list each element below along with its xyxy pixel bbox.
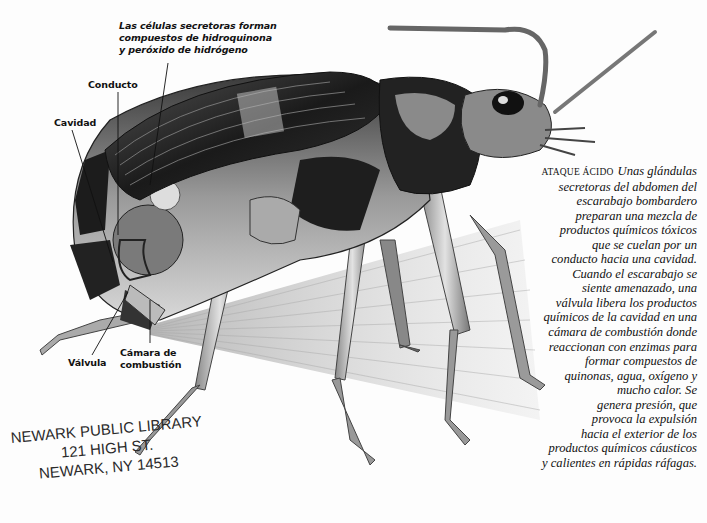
label-line: Las células secretoras forman	[119, 20, 277, 32]
caption-line: quinonas, agua, oxígeno y	[487, 369, 697, 384]
label-secretory-cells: Las células secretoras forman compuestos…	[119, 20, 277, 56]
label-cavity: Cavidad	[54, 117, 96, 129]
caption-line-0: ATAQUE ÁCIDOUnas glándulas	[487, 164, 697, 180]
label-line: y peróxido de hidrógeno	[119, 44, 277, 56]
label-valve: Válvula	[68, 357, 106, 369]
caption-block: ATAQUE ÁCIDOUnas glándulas secretoras de…	[487, 164, 697, 470]
caption-line: formar compuestos de	[487, 354, 697, 369]
caption-line: conducto hacia una cavidad.	[487, 252, 697, 267]
caption-line: escarabajo bombardero	[487, 194, 697, 209]
caption-heading: ATAQUE ÁCIDO	[541, 167, 613, 177]
caption-line: hacia el exterior de los	[487, 427, 697, 442]
label-combustion-chamber: Cámara de combustión	[120, 347, 181, 371]
caption-line: reaccionan con enzimas para	[487, 340, 697, 355]
caption-line: productos químicos tóxicos	[487, 223, 697, 238]
caption-text: Unas glándulas	[618, 164, 697, 178]
caption-line: que se cuelan por un	[487, 238, 697, 253]
caption-line: provoca la expulsión	[487, 412, 697, 427]
caption-line: siente amenazado, una	[487, 281, 697, 296]
caption-line: productos químicos cáusticos	[487, 441, 697, 456]
caption-line: cámara de combustión donde	[487, 325, 697, 340]
label-line: compuestos de hidroquinona	[119, 32, 277, 44]
caption-line: químicos de la cavidad en una	[487, 310, 697, 325]
caption-line: válvula libera los productos	[487, 296, 697, 311]
caption-line: mucho calor. Se	[487, 383, 697, 398]
caption-line: preparan una mezcla de	[487, 209, 697, 224]
label-line: Cámara de	[120, 347, 181, 359]
book-page: Las células secretoras forman compuestos…	[0, 0, 707, 523]
caption-line: genera presión, que	[487, 398, 697, 413]
label-line: combustión	[120, 359, 181, 371]
caption-line: Cuando el escarabajo se	[487, 267, 697, 282]
label-conduct: Conducto	[88, 79, 138, 91]
antenna	[555, 32, 655, 112]
caption-line: y calientes en rápidas ráfagas.	[487, 456, 697, 471]
caption-line: secretoras del abdomen del	[487, 180, 697, 195]
